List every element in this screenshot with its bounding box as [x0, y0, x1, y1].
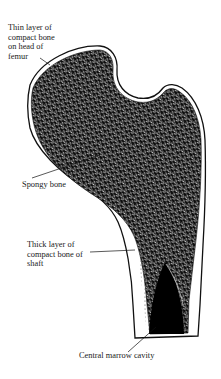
label-thin-layer: Thin layer of compact bone on head of fe…: [8, 23, 55, 61]
label-marrow-cavity: Central marrow cavity: [79, 351, 154, 361]
label-thick-layer: Thick layer of compact bone of shaft: [27, 240, 83, 269]
label-spongy-bone: Spongy bone: [22, 180, 66, 190]
